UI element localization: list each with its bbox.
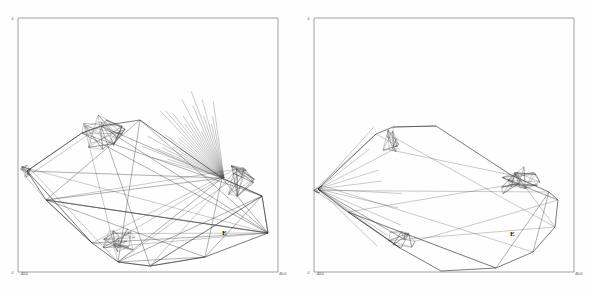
speckle-dot	[142, 118, 143, 119]
mesh-chord	[46, 178, 222, 200]
speckle-dot	[432, 241, 433, 242]
axis-tick-max: 40.0	[575, 271, 583, 276]
panel-labels: 40-40.040.0E	[308, 17, 583, 277]
speckle-dot	[224, 184, 225, 185]
speckle-dot	[250, 215, 251, 216]
mesh-chord	[140, 120, 268, 233]
cluster-edge	[122, 126, 125, 129]
mesh-chord	[27, 171, 222, 178]
mesh-chord	[222, 178, 268, 233]
speckle-dot	[439, 187, 440, 188]
fan-edge	[179, 138, 224, 178]
cluster-edge	[103, 234, 113, 248]
cluster-tie	[502, 177, 558, 200]
speckle-dot	[100, 236, 101, 237]
speckle-dot	[64, 34, 65, 35]
cluster-edge	[393, 231, 401, 244]
panel-left: 40-40.040.0E	[0, 0, 296, 296]
speckle-dot	[453, 236, 454, 237]
cluster-tie	[103, 178, 222, 247]
cluster-tie	[389, 150, 511, 175]
speckle-dot	[102, 93, 103, 94]
fan-edge	[160, 111, 224, 178]
speckle-dot	[330, 183, 331, 184]
speckle-dot	[255, 256, 256, 257]
speckle-dot	[165, 210, 166, 211]
axis-tick-min: -40.0	[20, 271, 29, 276]
cluster-edge	[88, 147, 102, 149]
fan-edge	[318, 189, 387, 235]
cluster-edge	[238, 183, 254, 196]
edge-fan	[141, 91, 224, 178]
cluster-tie	[348, 185, 510, 212]
vertex-cluster	[348, 167, 558, 227]
fan-edge	[193, 106, 224, 178]
fan-edge	[318, 170, 379, 189]
speckle-dot	[480, 227, 481, 228]
cluster-edge	[389, 232, 391, 241]
cluster-edge	[404, 239, 415, 241]
point-label-E: E	[510, 230, 515, 238]
mesh-chord	[82, 133, 268, 233]
fan-edge	[318, 149, 369, 189]
cluster-edge	[389, 241, 412, 247]
panel-right-canvas: 40-40.040.0E	[296, 0, 592, 296]
fan-edge	[318, 127, 374, 189]
mesh-chord	[46, 200, 268, 233]
axis-tick-min: -40.0	[316, 271, 325, 276]
fan-edge	[173, 147, 224, 178]
speckle-dot	[80, 53, 81, 54]
cluster-tie	[515, 173, 555, 227]
speckle-dot	[405, 102, 406, 103]
speckle-dot	[182, 129, 183, 130]
cluster-edge	[502, 187, 503, 194]
cluster-edge	[383, 130, 388, 150]
speckle-dot	[221, 46, 222, 47]
fan-edge	[165, 135, 224, 178]
speckle-dot	[321, 234, 322, 235]
axis-frame	[18, 18, 278, 272]
mesh-chord	[101, 126, 268, 233]
speckle-dot	[199, 104, 200, 105]
speckle-dot	[451, 166, 452, 167]
cluster-edge	[85, 122, 101, 126]
vertex-cluster	[21, 126, 268, 262]
mesh-chord	[27, 171, 92, 243]
cluster-tie	[30, 169, 118, 262]
speckle-dot	[429, 132, 430, 133]
cluster-edge	[503, 187, 511, 194]
speckle-dot	[71, 99, 72, 100]
speckle-dot	[173, 228, 174, 229]
hull-polygon	[318, 126, 558, 271]
cluster-tie	[26, 126, 101, 177]
wireframe-mesh	[314, 126, 558, 268]
speckle-dot	[557, 160, 558, 161]
mesh-chord	[118, 257, 205, 262]
cluster-edge	[118, 247, 133, 249]
speckle-dot	[442, 123, 443, 124]
fan-edge	[147, 136, 224, 178]
cluster-edge	[387, 131, 392, 137]
cluster-edge	[396, 146, 397, 152]
scan-speckle	[64, 33, 270, 256]
scan-speckle	[321, 24, 557, 258]
panel-labels: 40-40.040.0E	[12, 17, 287, 277]
vertex-cluster	[46, 166, 254, 266]
fan-edge	[157, 149, 224, 178]
speckle-dot	[468, 36, 469, 37]
vertex-cluster	[376, 127, 555, 227]
hull-polygon	[27, 120, 268, 266]
speckle-dot	[270, 170, 271, 171]
cluster-edge	[508, 167, 524, 181]
speckle-dot	[351, 24, 352, 25]
cluster-edge	[104, 239, 127, 241]
point-label-E: E	[222, 229, 227, 237]
cluster-tie	[113, 233, 268, 234]
mesh-chord	[150, 196, 262, 266]
cluster-edge	[412, 241, 415, 247]
cluster-tie	[103, 233, 268, 247]
axis-tick-max: 40.0	[279, 271, 287, 276]
axis-label-origin: 0	[308, 271, 310, 275]
fan-edge	[191, 122, 224, 178]
cluster-tie	[415, 200, 558, 241]
